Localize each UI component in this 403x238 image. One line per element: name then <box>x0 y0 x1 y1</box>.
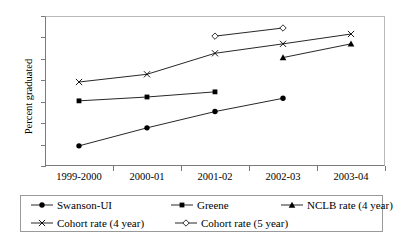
legend-item-cohort-rate-4-year[interactable]: Cohort rate (4 year) <box>29 214 144 232</box>
chart-legend: Swanson-UIGreeneNCLB rate (4 year) Cohor… <box>20 195 383 232</box>
data-point-filled-circle <box>280 96 285 101</box>
legend-item-swanson-ui[interactable]: Swanson-UI <box>29 196 112 214</box>
data-point-open-diamond <box>183 220 189 226</box>
legend-item-label: Swanson-UI <box>55 200 112 211</box>
filled-circle-icon <box>29 196 55 214</box>
series-swanson-ui <box>76 96 285 149</box>
legend-row: Cohort rate (4 year)Cohort rate (5 year) <box>21 214 382 232</box>
legend-item-label: Cohort rate (4 year) <box>55 218 144 229</box>
series-line <box>79 98 283 146</box>
series-line <box>79 34 351 82</box>
legend-item-label: Cohort rate (5 year) <box>199 218 288 229</box>
legend-item-nclb-rate-4-year[interactable]: NCLB rate (4 year) <box>279 196 393 214</box>
data-point-filled-triangle <box>348 41 355 47</box>
graduation-rate-line-chart: Percent graduated 5055606570758085 1999-… <box>0 0 403 238</box>
data-point-filled-square <box>180 203 185 208</box>
data-point-filled-square <box>77 98 82 103</box>
filled-triangle-icon <box>279 196 305 214</box>
data-point-filled-circle <box>76 143 81 148</box>
series-line <box>215 28 283 36</box>
open-diamond-icon <box>173 214 199 232</box>
data-point-filled-circle <box>144 125 149 130</box>
series-line <box>283 44 351 58</box>
series-nclb-rate-4-year <box>280 41 355 61</box>
legend-item-cohort-rate-5-year[interactable]: Cohort rate (5 year) <box>173 214 288 232</box>
cross-x-icon <box>29 214 55 232</box>
data-point-open-diamond <box>212 33 218 39</box>
legend-item-greene[interactable]: Greene <box>169 196 229 214</box>
data-point-filled-circle <box>212 109 217 114</box>
legend-item-label: Greene <box>195 200 229 211</box>
series-greene <box>77 89 218 103</box>
data-point-open-diamond <box>280 25 286 31</box>
series-cohort-rate-5-year <box>212 25 286 40</box>
legend-row: Swanson-UIGreeneNCLB rate (4 year) <box>21 196 382 214</box>
data-point-filled-square <box>145 95 150 100</box>
data-point-filled-square <box>213 89 218 94</box>
data-point-filled-circle <box>39 202 44 207</box>
filled-square-icon <box>169 196 195 214</box>
legend-item-label: NCLB rate (4 year) <box>305 200 393 211</box>
